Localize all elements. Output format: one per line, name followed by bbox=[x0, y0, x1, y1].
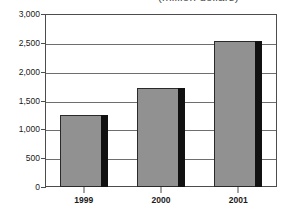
y-tick-label: 2,000 bbox=[0, 67, 40, 77]
y-tick-label: 2,500 bbox=[0, 38, 40, 48]
y-tick-label: 3,000 bbox=[0, 9, 40, 19]
x-tick-label-2000: 2000 bbox=[152, 195, 171, 205]
x-tick-mark bbox=[238, 187, 239, 193]
y-tick-label: 500 bbox=[0, 153, 40, 163]
bar-2001 bbox=[214, 41, 262, 187]
x-tick-label-1999: 1999 bbox=[74, 195, 93, 205]
bars-layer bbox=[45, 14, 277, 187]
x-tick-mark bbox=[83, 187, 84, 193]
bar-2000 bbox=[137, 88, 185, 187]
y-tick-label: 1,500 bbox=[0, 96, 40, 106]
y-tick-label: 1,000 bbox=[0, 124, 40, 134]
x-tick-label-2001: 2001 bbox=[229, 195, 248, 205]
x-tick-mark bbox=[161, 187, 162, 193]
bar-shadow bbox=[101, 115, 108, 187]
y-axis: 05001,0001,5002,0002,5003,000 bbox=[0, 14, 40, 187]
y-tick-label: 0 bbox=[0, 182, 40, 192]
bar-1999 bbox=[60, 115, 108, 187]
bar-shadow bbox=[255, 41, 262, 187]
bar-shadow bbox=[178, 88, 185, 187]
x-axis: 199920002001 bbox=[45, 187, 277, 217]
chart-title: (million dollars) bbox=[158, 0, 288, 3]
